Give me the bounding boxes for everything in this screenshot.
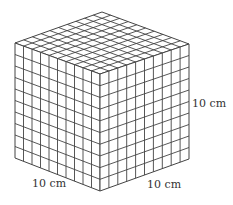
left-width-label: 10 cm bbox=[32, 177, 66, 190]
right-width-label: 10 cm bbox=[147, 178, 181, 191]
height-label: 10 cm bbox=[192, 97, 226, 110]
